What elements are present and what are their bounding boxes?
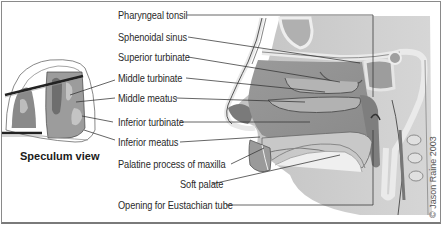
anatomy-illustration: [0, 0, 442, 225]
label-soft-palate: Soft palate: [180, 178, 223, 190]
speculum-view-inset: [2, 60, 95, 142]
sagittal-section: [227, 16, 432, 215]
label-middle-meatus: Middle meatus: [118, 92, 177, 104]
label-inferior-turbinate: Inferior turbinate: [118, 116, 184, 128]
label-sphenoidal-sinus: Sphenoidal sinus: [118, 31, 187, 43]
label-palatine-process: Palatine process of maxilla: [118, 158, 226, 170]
label-middle-turbinate: Middle turbinate: [118, 72, 182, 84]
copyright-notice: © Jason Raine 2003: [428, 136, 438, 218]
label-superior-turbinate: Superior turbinate: [118, 51, 190, 63]
label-pharyngeal-tonsil: Pharyngeal tonsil: [118, 9, 187, 21]
nasal-anatomy-diagram: Pharyngeal tonsil Sphenoidal sinus Super…: [0, 0, 442, 225]
label-inferior-meatus: Inferior meatus: [118, 136, 178, 148]
label-eustachian-opening: Opening for Eustachian tube: [118, 199, 233, 211]
speculum-view-caption: Speculum view: [20, 150, 99, 162]
